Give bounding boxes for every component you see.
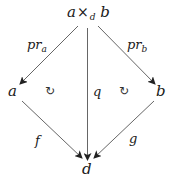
arrow-f bbox=[22, 101, 82, 158]
subscript-d: d bbox=[90, 12, 96, 22]
arrow-pr-a bbox=[20, 26, 78, 84]
commutes-icon-right: ↻ bbox=[119, 85, 129, 97]
label-pr-a: pra bbox=[27, 38, 47, 54]
node-d: d bbox=[82, 162, 92, 177]
label-g: g bbox=[129, 132, 137, 145]
label-pr-a-base: pr bbox=[27, 37, 42, 52]
node-b: b bbox=[156, 84, 166, 99]
label-pr-a-sub: a bbox=[42, 44, 47, 54]
node-fiber-product: a×d b bbox=[67, 5, 110, 22]
label-pr-b-base: pr bbox=[127, 37, 142, 52]
diagram-arrows bbox=[0, 0, 174, 182]
arrow-pr-b bbox=[98, 26, 155, 84]
times-symbol: × bbox=[77, 4, 89, 20]
node-top-a: a bbox=[67, 3, 76, 21]
node-a: a bbox=[8, 84, 17, 99]
label-pr-b: prb bbox=[127, 38, 147, 54]
node-top-b: b bbox=[100, 3, 110, 21]
label-pr-b-sub: b bbox=[142, 44, 148, 54]
commutes-icon-left: ↻ bbox=[45, 85, 55, 97]
arrow-g bbox=[94, 101, 154, 158]
label-q: q bbox=[93, 85, 101, 98]
label-f: f bbox=[35, 134, 40, 147]
